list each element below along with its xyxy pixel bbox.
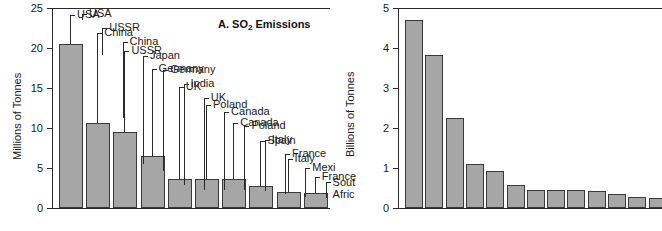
callout-leader-line xyxy=(206,105,207,179)
callout-elbow xyxy=(163,70,168,71)
bar xyxy=(222,179,246,208)
plot-area-panel-b xyxy=(398,8,662,209)
bar xyxy=(195,179,219,208)
y-tick-label: 10 xyxy=(18,123,43,134)
callout-leader-line xyxy=(260,141,261,186)
callout-leader-line xyxy=(224,112,225,190)
callout-leader-line xyxy=(152,69,153,156)
callout-label: Mexi xyxy=(312,162,335,173)
callout-elbow xyxy=(233,123,238,124)
callout-leader-line xyxy=(285,154,286,194)
y-tick-label: 3 xyxy=(364,83,389,94)
callout-leader-line xyxy=(184,84,185,185)
panel-a-title: A. SO2 Emissions xyxy=(218,18,310,32)
callout-elbow xyxy=(288,159,293,160)
callout-elbow xyxy=(206,105,211,106)
bar-series-panel-b xyxy=(399,9,662,208)
callout-leader-line xyxy=(179,87,180,179)
bar xyxy=(277,192,301,208)
panel-co2-emissions: 012345 USAUSSRChinaJapanGermanyIndiaUKCa… xyxy=(331,0,662,231)
y-tick-label: 4 xyxy=(364,43,389,54)
callout-elbow xyxy=(102,28,107,29)
y-tick-label: 20 xyxy=(18,43,43,54)
y-tick-label: 15 xyxy=(18,83,43,94)
y-tick-label: 25 xyxy=(18,3,43,14)
callout-elbow xyxy=(285,154,290,155)
bar xyxy=(588,191,606,208)
callout-leader-line xyxy=(163,70,164,171)
panel-a-title-prefix: A. SO xyxy=(218,18,248,30)
callout-label: UK xyxy=(211,92,226,103)
y-axis-title-panel-b: Billions of Tonnes xyxy=(345,72,356,157)
bar xyxy=(628,197,646,208)
callout-leader-line xyxy=(204,98,205,190)
y-tick-label: 1 xyxy=(364,163,389,174)
panel-a-title-suffix: Emissions xyxy=(252,18,310,30)
callout-elbow xyxy=(244,126,249,127)
bar xyxy=(446,118,464,208)
callout-label: Japan xyxy=(150,50,180,61)
bar xyxy=(304,193,328,208)
bar xyxy=(59,44,83,208)
bar xyxy=(649,198,662,208)
callout-leader-line xyxy=(288,159,289,192)
bar xyxy=(507,185,525,208)
callout-label: China xyxy=(130,36,159,47)
bar xyxy=(141,156,165,208)
callout-elbow xyxy=(265,140,270,141)
y-tick-label: 5 xyxy=(364,3,389,14)
callout-elbow xyxy=(82,14,87,15)
callout-elbow xyxy=(315,177,320,178)
bar xyxy=(608,194,626,208)
callout-elbow xyxy=(204,98,209,99)
panel-a-title-subscript: 2 xyxy=(248,23,252,32)
emissions-figure: Millions of Tonnes 0510152025 USAChinaUS… xyxy=(0,0,662,231)
callout-elbow xyxy=(305,168,310,169)
callout-label: Canada xyxy=(231,106,270,117)
callout-leader-line xyxy=(70,15,71,44)
callout-label: Poland xyxy=(251,120,285,131)
bar xyxy=(527,190,545,208)
callout-label: Germany xyxy=(170,64,215,75)
callout-leader-line xyxy=(233,123,234,179)
y-tick-label: 5 xyxy=(18,163,43,174)
callout-label: France xyxy=(292,148,326,159)
callout-label: Sout Afric xyxy=(333,176,356,200)
callout-label: USSR xyxy=(109,22,140,33)
callout-leader-line xyxy=(97,33,98,123)
bar xyxy=(486,171,504,208)
bar xyxy=(466,164,484,208)
y-tick-label: 0 xyxy=(18,203,43,214)
callout-elbow xyxy=(224,112,229,113)
bar xyxy=(425,55,443,208)
bar xyxy=(168,179,192,208)
callout-label: India xyxy=(191,78,215,89)
bar xyxy=(567,190,585,208)
callout-leader-line xyxy=(326,182,327,198)
callout-elbow xyxy=(123,42,128,43)
y-tick-label: 2 xyxy=(364,123,389,134)
callout-elbow xyxy=(152,69,157,70)
panel-so2-emissions: Millions of Tonnes 0510152025 USAChinaUS… xyxy=(0,0,331,231)
callout-elbow xyxy=(143,56,148,57)
bar xyxy=(547,190,565,208)
callout-leader-line xyxy=(124,51,125,132)
callout-leader-line xyxy=(123,42,124,118)
callout-leader-line xyxy=(244,126,245,190)
callout-elbow xyxy=(184,84,189,85)
bar xyxy=(405,20,423,208)
callout-label: Italy xyxy=(272,134,292,145)
callout-label: USA xyxy=(89,8,112,19)
bar xyxy=(86,123,110,208)
callout-elbow xyxy=(124,51,129,52)
bar xyxy=(113,132,137,208)
callout-leader-line xyxy=(305,168,306,197)
bar xyxy=(249,186,273,208)
callout-leader-line xyxy=(102,28,103,55)
y-tick-label: 0 xyxy=(364,203,389,214)
callout-elbow xyxy=(70,15,75,16)
callout-leader-line xyxy=(265,140,266,191)
callout-leader-line xyxy=(143,56,144,164)
callout-elbow xyxy=(326,182,331,183)
callout-leader-line xyxy=(315,177,316,193)
